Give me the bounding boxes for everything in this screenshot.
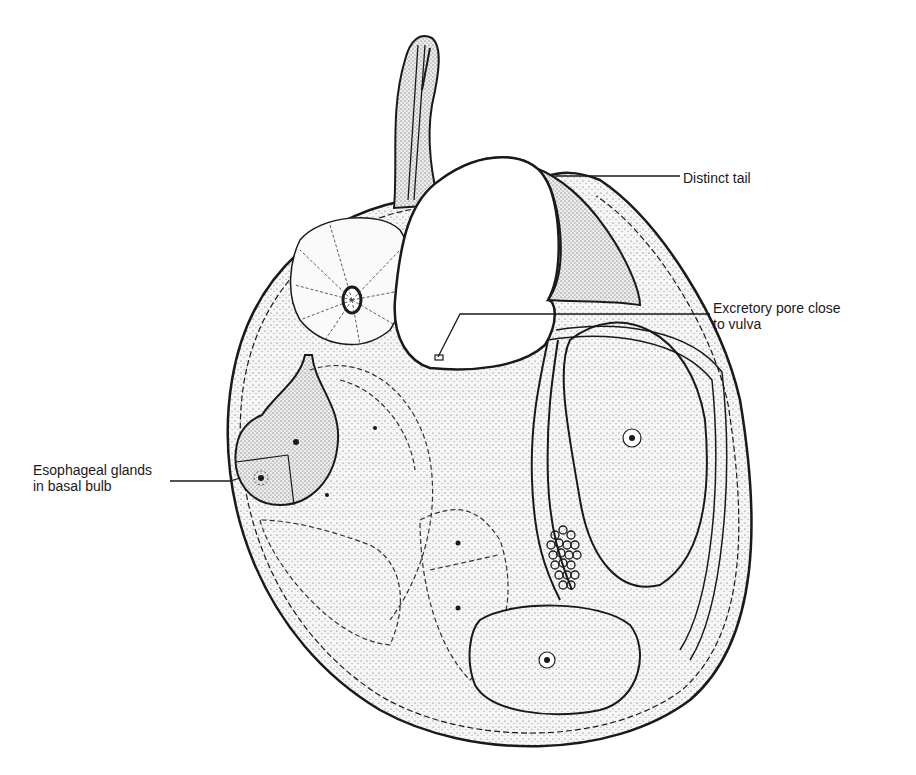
label-excretory-pore-line1: Excretory pore close — [713, 300, 841, 316]
head-neck — [394, 36, 440, 208]
leader-esophageal-glands — [170, 478, 240, 481]
nematode-illustration — [0, 0, 916, 775]
label-excretory-pore: Excretory pore close to vulva — [713, 300, 841, 332]
label-esophageal-glands-line1: Esophageal glands — [33, 462, 152, 478]
label-distinct-tail: Distinct tail — [683, 170, 751, 186]
label-esophageal-glands-line2: in basal bulb — [33, 478, 152, 494]
label-esophageal-glands: Esophageal glands in basal bulb — [33, 462, 152, 494]
median-bulb — [291, 218, 411, 345]
egg-lower — [470, 606, 640, 715]
label-distinct-tail-text: Distinct tail — [683, 170, 751, 186]
label-excretory-pore-line2: to vulva — [713, 316, 841, 332]
